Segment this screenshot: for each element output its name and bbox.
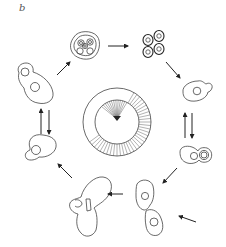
stage-free-spores: [143, 31, 164, 58]
stage-zygote-pair: [180, 146, 212, 163]
clock-hand-icon: [113, 116, 121, 121]
stage-shmoo-zygote: [70, 177, 112, 236]
stage-haploid-budding-right: [183, 81, 212, 101]
panel-label: b: [19, 2, 25, 13]
stage-diploid-budding-left: [25, 135, 56, 160]
arrow-pair-to-mating: [163, 168, 177, 183]
diagram-canvas: [0, 0, 226, 247]
arrow-diploid-to-ascus: [57, 62, 70, 75]
arrow-external-mating: [179, 216, 196, 222]
arrow-spores-to-haploid: [166, 62, 180, 78]
yeast-life-cycle-diagram: b: [0, 0, 226, 247]
arrows: [41, 46, 196, 222]
stage-diploid-large: [18, 63, 53, 104]
arrow-zygote-to-diploid: [58, 164, 72, 178]
center-clock: [83, 88, 151, 156]
stage-mating-pair: [136, 180, 163, 235]
stage-tetrad-ascus: [71, 32, 100, 60]
